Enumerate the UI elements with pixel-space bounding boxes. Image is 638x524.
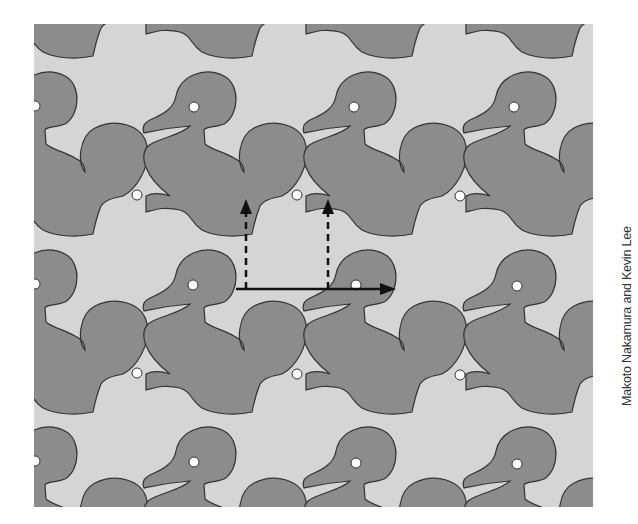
duck-tessellation-figure [34, 24, 593, 507]
photo-credit: Makoto Nakamura and Kevin Lee [620, 226, 634, 406]
tessellation-svg [34, 24, 593, 507]
